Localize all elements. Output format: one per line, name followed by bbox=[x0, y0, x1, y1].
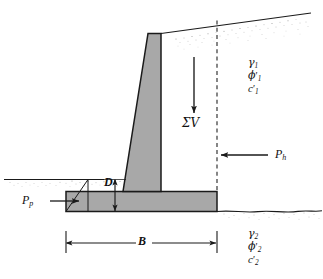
pp-subscript: p bbox=[29, 199, 33, 208]
pp-label: Pp bbox=[22, 194, 33, 208]
width-dimension-label: B bbox=[138, 235, 146, 247]
sum-v-text: ΣV bbox=[182, 116, 199, 130]
ph-subscript: h bbox=[282, 153, 286, 162]
backfill-slope-line bbox=[161, 13, 311, 34]
soil-upper-properties: γ1 ϕ′1 c′1 bbox=[248, 57, 261, 96]
wall-stem bbox=[123, 34, 161, 192]
diagram-canvas bbox=[0, 0, 323, 279]
retaining-wall-figure: ΣV Ph Pp D B γ1 ϕ′1 c′1 γ2 ϕ′2 c′2 bbox=[0, 0, 323, 279]
soil-lower-cohesion: c′2 bbox=[248, 254, 261, 267]
wall-footing bbox=[66, 192, 217, 212]
sum-v-label: ΣV bbox=[182, 117, 199, 129]
soil-lower-properties: γ2 ϕ′2 c′2 bbox=[248, 228, 261, 267]
soil-upper-cohesion: c′1 bbox=[248, 83, 261, 96]
ph-label: Ph bbox=[275, 148, 286, 162]
depth-dimension-label: D bbox=[104, 176, 113, 188]
stipple-foundation-texture bbox=[224, 213, 320, 220]
foundation-ground-line bbox=[217, 211, 322, 212]
width-text: B bbox=[138, 234, 146, 248]
depth-text: D bbox=[104, 175, 113, 189]
stipple-slope-texture bbox=[176, 19, 309, 49]
